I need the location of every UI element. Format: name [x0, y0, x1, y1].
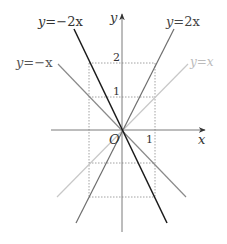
origin-label: O — [109, 132, 120, 147]
line-y-eq-neg-2x — [74, 29, 167, 223]
label-y-eq-2x: y=2x — [165, 14, 201, 29]
label-y-eq-neg-2x: y=−2x — [37, 14, 83, 29]
label-y-eq-neg-x: y=−x — [15, 55, 53, 70]
line-y-eq-2x — [76, 29, 174, 223]
label-y-eq-x: y=x — [189, 55, 214, 69]
function-graph-figure: y x O 2 1 1 y=−2x y=−x y=2x y=x — [0, 0, 227, 244]
y-tick-1: 1 — [113, 85, 120, 98]
y-tick-2: 2 — [113, 51, 120, 64]
x-tick-1: 1 — [146, 133, 153, 146]
x-axis-label: x — [198, 132, 206, 147]
y-axis-label: y — [109, 10, 118, 25]
